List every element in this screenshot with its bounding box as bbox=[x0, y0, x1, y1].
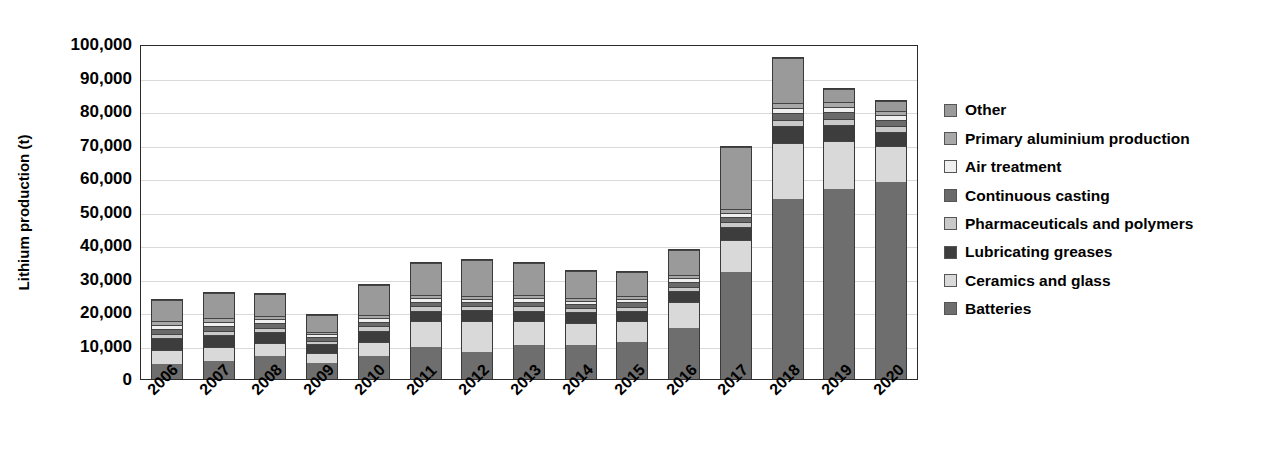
bar-segment[interactable] bbox=[566, 323, 596, 345]
bar-segment[interactable] bbox=[773, 199, 803, 379]
bar-segment[interactable] bbox=[204, 335, 234, 347]
legend-item[interactable]: Air treatment bbox=[944, 153, 1266, 181]
legend-item[interactable]: Pharmaceuticals and polymers bbox=[944, 210, 1266, 238]
bar-segment[interactable] bbox=[617, 272, 647, 296]
bar-segment[interactable] bbox=[617, 311, 647, 321]
bar-segment[interactable] bbox=[721, 240, 751, 272]
bar-segment[interactable] bbox=[876, 132, 906, 146]
y-axis-tick-label: 60,000 bbox=[80, 169, 132, 189]
bar-slot bbox=[141, 46, 193, 379]
legend-item[interactable]: Primary aluminium production bbox=[944, 124, 1266, 152]
legend-swatch-icon bbox=[944, 302, 957, 315]
x-tick-slot: 2016 bbox=[659, 384, 711, 444]
stacked-bar[interactable] bbox=[772, 57, 804, 379]
bar-segment[interactable] bbox=[773, 143, 803, 199]
bar-segment[interactable] bbox=[359, 285, 389, 315]
x-tick-slot: 2012 bbox=[451, 384, 503, 444]
bar-segment[interactable] bbox=[152, 300, 182, 321]
bar-segment[interactable] bbox=[359, 331, 389, 342]
bar-segment[interactable] bbox=[824, 112, 854, 119]
legend-item-label: Pharmaceuticals and polymers bbox=[965, 216, 1193, 232]
bar-segment[interactable] bbox=[204, 347, 234, 361]
x-tick-slot: 2006 bbox=[140, 384, 192, 444]
bar-slot bbox=[762, 46, 814, 379]
bar-segment[interactable] bbox=[824, 189, 854, 379]
legend-item[interactable]: Ceramics and glass bbox=[944, 266, 1266, 294]
x-tick-slot: 2010 bbox=[347, 384, 399, 444]
legend-item[interactable]: Other bbox=[944, 96, 1266, 124]
y-axis-tick-label: 70,000 bbox=[80, 136, 132, 156]
x-tick-slot: 2018 bbox=[762, 384, 814, 444]
x-tick-slot: 2011 bbox=[399, 384, 451, 444]
legend-item-label: Lubricating greases bbox=[965, 244, 1112, 260]
stacked-bar[interactable] bbox=[875, 100, 907, 379]
bar-segment[interactable] bbox=[307, 315, 337, 331]
bar-segment[interactable] bbox=[411, 321, 441, 346]
bar-segment[interactable] bbox=[411, 263, 441, 294]
bar-slot bbox=[244, 46, 296, 379]
bar-segment[interactable] bbox=[773, 126, 803, 143]
y-axis-tick-label: 10,000 bbox=[80, 337, 132, 357]
stacked-bar[interactable] bbox=[461, 259, 493, 379]
stacked-bar[interactable] bbox=[720, 146, 752, 379]
stacked-bar[interactable] bbox=[513, 262, 545, 379]
stacked-bar[interactable] bbox=[668, 249, 700, 379]
bar-slot bbox=[658, 46, 710, 379]
bar-segment[interactable] bbox=[204, 293, 234, 318]
bar-segment[interactable] bbox=[514, 311, 544, 322]
bar-segment[interactable] bbox=[462, 260, 492, 296]
bar-segment[interactable] bbox=[566, 312, 596, 322]
bar-segment[interactable] bbox=[152, 338, 182, 350]
stacked-bars-group bbox=[141, 46, 917, 379]
bar-segment[interactable] bbox=[721, 147, 751, 210]
x-tick-slot: 2009 bbox=[296, 384, 348, 444]
bar-segment[interactable] bbox=[514, 263, 544, 295]
bar-segment[interactable] bbox=[773, 58, 803, 103]
bar-segment[interactable] bbox=[514, 321, 544, 344]
y-axis-tick-label: 100,000 bbox=[71, 35, 132, 55]
y-axis-tick-label: 90,000 bbox=[80, 69, 132, 89]
bar-slot bbox=[451, 46, 503, 379]
bar-slot bbox=[296, 46, 348, 379]
bar-slot bbox=[607, 46, 659, 379]
legend-item-label: Ceramics and glass bbox=[965, 273, 1111, 289]
legend-swatch-icon bbox=[944, 160, 957, 173]
bar-segment[interactable] bbox=[669, 250, 699, 275]
x-tick-slot: 2015 bbox=[607, 384, 659, 444]
bar-segment[interactable] bbox=[411, 311, 441, 322]
y-axis-tick-labels: 100,00090,00080,00070,00060,00050,00040,… bbox=[22, 45, 136, 380]
bar-segment[interactable] bbox=[255, 332, 285, 343]
bar-segment[interactable] bbox=[462, 321, 492, 352]
x-tick-slot: 2008 bbox=[244, 384, 296, 444]
bar-segment[interactable] bbox=[359, 342, 389, 356]
bar-segment[interactable] bbox=[307, 344, 337, 352]
bar-slot bbox=[555, 46, 607, 379]
bar-segment[interactable] bbox=[669, 302, 699, 328]
bar-segment[interactable] bbox=[462, 310, 492, 320]
bar-segment[interactable] bbox=[773, 113, 803, 120]
bar-segment[interactable] bbox=[876, 146, 906, 182]
bar-segment[interactable] bbox=[721, 227, 751, 239]
bar-segment[interactable] bbox=[876, 101, 906, 111]
bar-segment[interactable] bbox=[824, 125, 854, 141]
legend-item[interactable]: Batteries bbox=[944, 295, 1266, 323]
legend-item[interactable]: Lubricating greases bbox=[944, 238, 1266, 266]
bar-segment[interactable] bbox=[617, 321, 647, 342]
bar-segment[interactable] bbox=[824, 89, 854, 103]
bar-segment[interactable] bbox=[824, 141, 854, 189]
y-axis-tick-label: 20,000 bbox=[80, 303, 132, 323]
chart-figure: Lithium production (t) 100,00090,00080,0… bbox=[0, 0, 1275, 451]
x-axis-tick-labels: 2006200720082009201020112012201320142015… bbox=[140, 384, 918, 444]
bar-segment[interactable] bbox=[255, 343, 285, 356]
x-tick-slot: 2020 bbox=[866, 384, 918, 444]
legend-item[interactable]: Continuous casting bbox=[944, 181, 1266, 209]
legend-item-label: Air treatment bbox=[965, 159, 1061, 175]
bar-segment[interactable] bbox=[566, 271, 596, 298]
stacked-bar[interactable] bbox=[823, 88, 855, 379]
bar-segment[interactable] bbox=[255, 294, 285, 316]
bar-segment[interactable] bbox=[307, 353, 337, 363]
bar-segment[interactable] bbox=[876, 182, 906, 379]
bar-segment[interactable] bbox=[669, 291, 699, 302]
legend-item-label: Batteries bbox=[965, 301, 1031, 317]
bar-slot bbox=[710, 46, 762, 379]
